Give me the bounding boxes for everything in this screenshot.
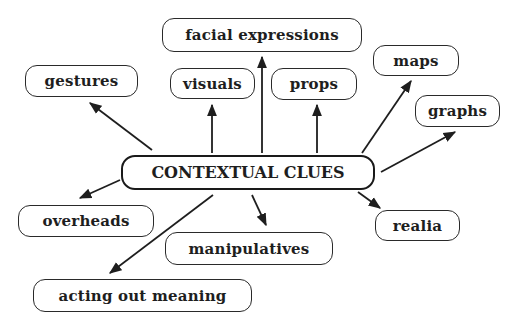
arrow-to-realia xyxy=(358,192,380,208)
node-graphs: graphs xyxy=(415,95,500,127)
arrow-to-overheads xyxy=(80,180,120,198)
node-facial-expressions: facial expressions xyxy=(162,18,362,52)
concept-map-canvas: CONTEXTUAL CLUES facial expressions gest… xyxy=(0,0,516,331)
arrow-to-gestures xyxy=(90,103,152,150)
node-gestures: gestures xyxy=(25,65,138,97)
arrow-to-graphs xyxy=(381,132,455,172)
arrow-to-maps xyxy=(362,81,411,153)
center-node-contextual-clues: CONTEXTUAL CLUES xyxy=(121,155,375,190)
node-visuals: visuals xyxy=(170,68,255,99)
node-maps: maps xyxy=(373,45,459,76)
node-props: props xyxy=(271,68,357,100)
arrow-to-manipulatives xyxy=(252,195,266,225)
node-realia: realia xyxy=(375,210,460,241)
node-acting-out-meaning: acting out meaning xyxy=(33,279,252,312)
node-manipulatives: manipulatives xyxy=(165,232,333,265)
node-overheads: overheads xyxy=(18,205,154,237)
